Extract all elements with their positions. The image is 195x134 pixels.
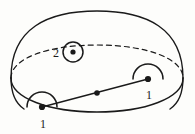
disk-center-dot [70, 49, 75, 54]
hemisphere-diagram: 2 1 1 [0, 0, 195, 134]
left-wall-edge [11, 78, 24, 109]
rim-back-arc-dashed [11, 45, 183, 78]
right-wall-edge [170, 78, 183, 109]
figure-container: 2 1 1 [0, 0, 195, 134]
segment-midpoint-dot [94, 90, 100, 96]
handle-left-dot [39, 104, 45, 110]
handle-right-label: 1 [146, 88, 152, 102]
handle-left-label: 1 [40, 117, 46, 131]
disk-label: 2 [53, 46, 59, 60]
handle-right-dot [145, 76, 151, 82]
